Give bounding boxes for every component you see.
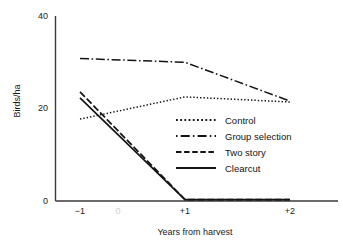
x-tick-label-plus-2: +2 — [275, 206, 305, 216]
legend-label-clearcut: Clearcut — [225, 163, 260, 174]
x-tick-label-minus-1: −1 — [65, 206, 95, 216]
legend-swatch-dotted-icon — [176, 115, 218, 125]
y-axis-title: Birds/ha — [12, 71, 22, 131]
x-tick-label-0: 0 — [103, 206, 133, 216]
legend-item-group-selection: Group selection — [176, 128, 336, 144]
x-axis-title: Years from harvest — [55, 227, 335, 237]
legend-item-two-story: Two story — [176, 144, 336, 160]
bird-density-line-chart: 40 20 0 −1 0 +1 +2 Birds/ha Years from h… — [0, 0, 343, 249]
y-tick-label-20: 20 — [28, 103, 48, 113]
legend-swatch-dashed-icon — [176, 147, 218, 157]
legend-swatch-solid-icon — [176, 163, 218, 173]
legend-item-clearcut: Clearcut — [176, 160, 336, 176]
legend-label-control: Control — [225, 115, 256, 126]
legend-swatch-dash-dot-icon — [176, 131, 218, 141]
legend: Control Group selection Two story — [176, 112, 336, 176]
y-tick-label-0: 0 — [28, 196, 48, 206]
x-tick-label-plus-1: +1 — [170, 206, 200, 216]
series-line-group-selection — [80, 59, 290, 102]
y-tick-label-40: 40 — [28, 11, 48, 21]
legend-label-two-story: Two story — [225, 147, 266, 158]
legend-label-group-selection: Group selection — [225, 131, 292, 142]
legend-item-control: Control — [176, 112, 336, 128]
